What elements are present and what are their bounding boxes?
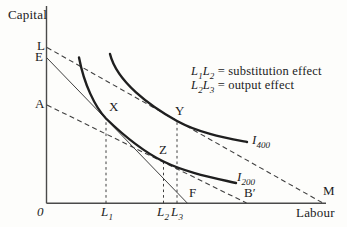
isoquant-diagram: Capital Labour 0 L E A X Y Z F B′ M L1 L… bbox=[0, 0, 347, 227]
origin-label: 0 bbox=[37, 205, 44, 219]
isoquant-200-sub: 200 bbox=[242, 177, 256, 187]
isoquant-400-sub: 400 bbox=[257, 140, 271, 150]
tick-L1-sub: 1 bbox=[108, 212, 113, 222]
tick-L2-sub: 2 bbox=[164, 212, 169, 222]
legend-substitution-effect: L1L2 = substitution effect bbox=[191, 65, 322, 78]
legend-output-effect: L2L3 = output effect bbox=[191, 79, 294, 92]
x-axis-label: Labour bbox=[296, 206, 335, 220]
tick-label-L3: L3 bbox=[171, 205, 183, 219]
point-label-Z: Z bbox=[159, 143, 167, 157]
point-label-A: A bbox=[35, 97, 45, 111]
point-label-E: E bbox=[35, 50, 43, 64]
point-label-X: X bbox=[109, 100, 119, 114]
point-label-Y: Y bbox=[175, 104, 185, 118]
point-label-B-prime: B′ bbox=[244, 186, 256, 200]
legend1-L-b: L bbox=[203, 64, 210, 78]
isoquant-400-label: I400 bbox=[252, 133, 270, 147]
tick-label-L2: L2 bbox=[157, 205, 169, 219]
legend2-text: = output effect bbox=[214, 78, 294, 92]
legend2-L-b: L bbox=[203, 78, 210, 92]
tick-L3-sub: 3 bbox=[178, 212, 183, 222]
point-label-F: F bbox=[189, 186, 196, 200]
tick-label-L1: L1 bbox=[101, 205, 113, 219]
diagram-canvas bbox=[0, 0, 347, 227]
legend1-text: = substitution effect bbox=[214, 64, 321, 78]
point-label-M: M bbox=[323, 184, 335, 198]
isoquant-200-label: I200 bbox=[237, 170, 255, 184]
isocost-EF-line bbox=[47, 58, 188, 203]
y-axis-label: Capital bbox=[8, 8, 47, 22]
isocost-AB-line bbox=[47, 105, 247, 203]
